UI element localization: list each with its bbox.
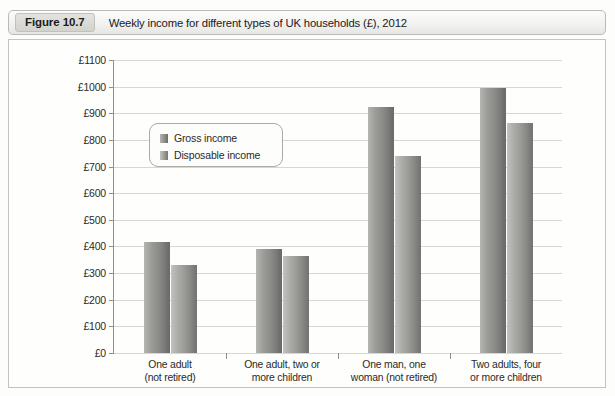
x-axis-category-label-line: more children	[226, 371, 338, 384]
y-axis-tick	[109, 246, 114, 247]
x-axis-category-label-line: One man, one	[338, 358, 450, 371]
x-axis-category-label: Two adults, fouror more children	[450, 358, 562, 384]
bar-disposable-income	[171, 265, 197, 353]
figure-caption-text: Weekly income for different types of UK …	[109, 17, 407, 29]
y-axis-line	[113, 60, 114, 353]
chart-frame: £0£100£200£300£400£500£600£700£800£900£1…	[8, 39, 606, 388]
y-axis-tick	[109, 300, 114, 301]
y-axis-label: £800	[83, 134, 106, 146]
y-axis-tick	[109, 87, 114, 88]
plot-area: £0£100£200£300£400£500£600£700£800£900£1…	[114, 60, 562, 353]
y-axis-label: £700	[83, 161, 106, 173]
y-axis-tick	[109, 326, 114, 327]
legend-label-gross-income: Gross income	[174, 132, 237, 144]
legend-swatch-gross-income	[160, 134, 168, 143]
y-axis-label: £500	[83, 214, 106, 226]
chart-legend: Gross income Disposable income	[149, 123, 283, 167]
y-axis-tick	[109, 140, 114, 141]
y-axis-tick	[109, 193, 114, 194]
legend-label-disposable-income: Disposable income	[174, 149, 260, 161]
x-axis-category-label: One adult(not retired)	[114, 358, 226, 384]
bar-disposable-income	[395, 156, 421, 353]
y-axis-label: £300	[83, 267, 106, 279]
y-axis-label: £0	[95, 347, 106, 359]
bar-gross-income	[368, 107, 394, 353]
bar-gross-income	[256, 249, 282, 353]
x-axis-category-label-line: Two adults, four	[450, 358, 562, 371]
legend-item-gross-income: Gross income	[160, 130, 282, 146]
y-axis-tick	[109, 273, 114, 274]
legend-item-disposable-income: Disposable income	[160, 147, 282, 163]
y-axis-label: £600	[83, 187, 106, 199]
y-axis-tick	[109, 167, 114, 168]
bar-disposable-income	[283, 256, 309, 353]
x-axis-category-label: One adult, two ormore children	[226, 358, 338, 384]
y-axis-tick	[109, 113, 114, 114]
y-axis-tick	[109, 353, 114, 354]
x-axis-category-label-line: One adult, two or	[226, 358, 338, 371]
bar-gross-income	[480, 88, 506, 353]
y-axis-label: £200	[83, 294, 106, 306]
bar-disposable-income	[507, 123, 533, 353]
bar-gross-income	[144, 242, 170, 353]
gridline	[114, 60, 562, 61]
x-axis-category-label-line: (not retired)	[114, 371, 226, 384]
y-axis-label: £100	[83, 320, 106, 332]
x-axis-category-label-line: One adult	[114, 358, 226, 371]
x-axis-category-label-line: woman (not retired)	[338, 371, 450, 384]
x-axis-labels: One adult(not retired)One adult, two orm…	[114, 355, 562, 389]
y-axis-label: £900	[83, 107, 106, 119]
x-axis-category-label: One man, onewoman (not retired)	[338, 358, 450, 384]
y-axis-label: £1100	[79, 54, 106, 66]
figure-number-tag: Figure 10.7	[15, 13, 95, 33]
y-axis-label: £400	[83, 240, 106, 252]
figure-page: Figure 10.7 Weekly income for different …	[0, 0, 615, 396]
x-axis-category-label-line: or more children	[450, 371, 562, 384]
y-axis-label: £1000	[78, 81, 106, 93]
legend-swatch-disposable-income	[160, 151, 168, 160]
figure-caption-bar: Figure 10.7 Weekly income for different …	[8, 10, 606, 35]
y-axis-tick	[109, 60, 114, 61]
y-axis-tick	[109, 220, 114, 221]
